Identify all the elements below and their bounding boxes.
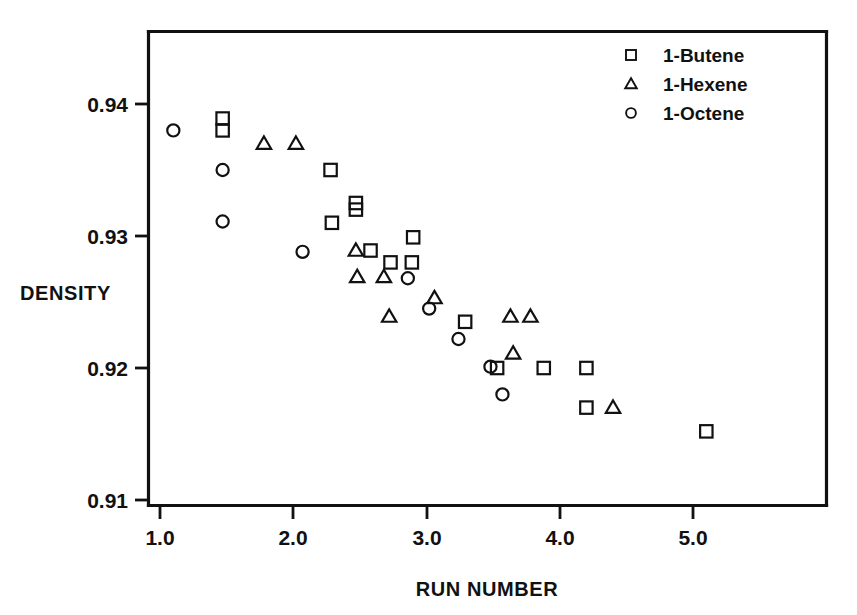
y-tick-label-3: 0.91 <box>87 489 128 512</box>
y-tick-label-2: 0.92 <box>87 357 128 380</box>
y-tick-label-1: 0.93 <box>87 225 128 248</box>
x-tick-label-0: 1.0 <box>145 526 174 549</box>
x-tick-label-4: 5.0 <box>678 526 707 549</box>
legend-label-0: 1-Butene <box>663 45 744 66</box>
x-axis-title: RUN NUMBER <box>416 578 559 600</box>
x-tick-label-2: 3.0 <box>412 526 441 549</box>
y-tick-label-0: 0.94 <box>87 93 128 116</box>
legend-label-1: 1-Hexene <box>663 74 748 95</box>
x-tick-label-3: 4.0 <box>545 526 574 549</box>
scatter-chart-figure: 0.94 0.93 0.92 0.91 DENSITY 1.0 2.0 3.0 … <box>0 0 857 615</box>
y-axis-title: DENSITY <box>20 282 111 304</box>
legend-label-2: 1-Octene <box>663 103 744 124</box>
density-vs-run-number-scatter-plot: 0.94 0.93 0.92 0.91 DENSITY 1.0 2.0 3.0 … <box>0 0 857 615</box>
x-tick-label-1: 2.0 <box>278 526 307 549</box>
